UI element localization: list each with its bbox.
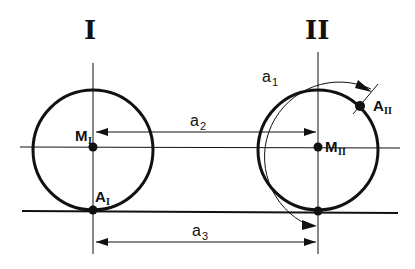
dimension-a3-arrow-left xyxy=(96,238,108,246)
arc-a1-arrowhead-bottom xyxy=(302,220,317,230)
arc-a1-arrowhead-top xyxy=(355,80,372,92)
position-label-i: I xyxy=(84,15,96,45)
dimension-a3-label: a xyxy=(192,222,201,239)
center-sub-ii: II xyxy=(338,146,346,157)
contact-point-ii xyxy=(314,207,323,216)
contact-label-i: A xyxy=(95,188,106,205)
dimension-a2-arrow-left xyxy=(96,128,108,136)
position-label-ii: II xyxy=(305,15,329,45)
rolling-circle-diagram: I II M I M II A I A II a 1 a 2 a 3 xyxy=(0,0,415,269)
dimension-a2-label: a xyxy=(190,112,199,129)
center-sub-i: I xyxy=(88,135,92,146)
contact-point-i xyxy=(89,206,98,215)
dimension-a3-arrow-right xyxy=(304,238,316,246)
dimension-a1-label: a xyxy=(262,68,271,85)
point-sub-ii: II xyxy=(384,105,392,116)
center-label-ii: M xyxy=(325,138,338,155)
contact-sub-i: I xyxy=(106,196,110,207)
point-label-ii: A xyxy=(373,97,384,114)
dimension-a1-sub: 1 xyxy=(272,76,278,88)
dimension-a3-sub: 3 xyxy=(202,230,208,242)
dimension-a2-sub: 2 xyxy=(200,120,206,132)
dimension-a2-arrow-right xyxy=(304,128,316,136)
center-point-ii xyxy=(314,143,323,152)
ground-line xyxy=(22,211,398,213)
center-label-i: M xyxy=(75,127,88,144)
